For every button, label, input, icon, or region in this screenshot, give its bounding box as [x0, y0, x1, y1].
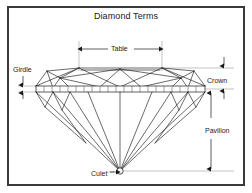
- label-culet: Culet: [91, 170, 107, 177]
- label-crown: Crown: [207, 77, 227, 84]
- label-table: Table: [111, 45, 128, 52]
- label-girdle: Girdle: [13, 66, 32, 73]
- measurement-arrows-layer: [0, 0, 252, 193]
- label-pavilion: Pavilion: [205, 127, 230, 134]
- diagram-page: Diamond Terms: [0, 0, 252, 193]
